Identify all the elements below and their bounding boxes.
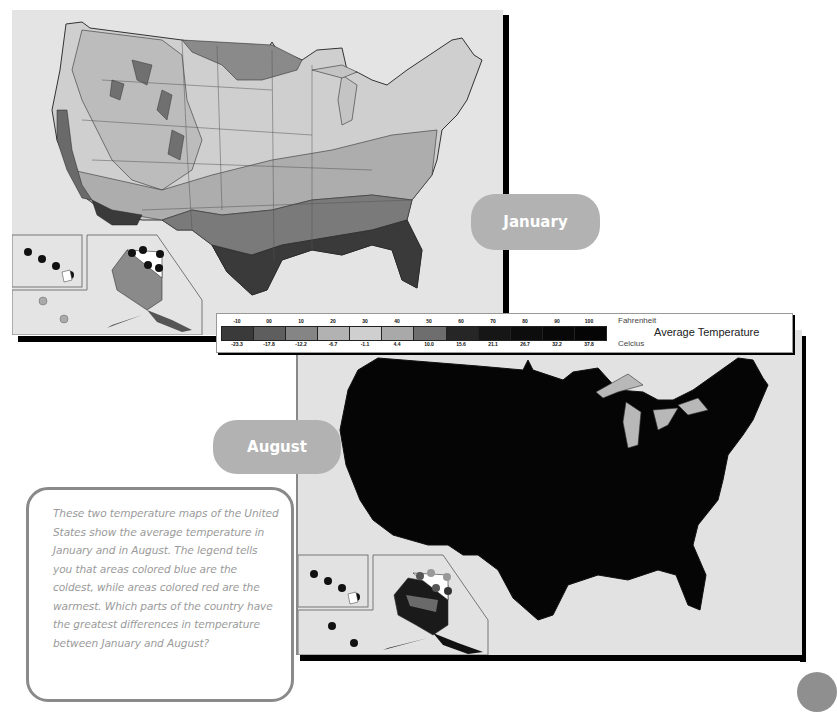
celsius-tick: 4.4 xyxy=(381,341,413,347)
fahrenheit-tick: 70 xyxy=(477,318,509,324)
fahrenheit-tick: 20 xyxy=(317,318,349,324)
legend-swatch xyxy=(479,327,511,340)
august-map xyxy=(296,330,802,655)
january-label: January xyxy=(471,194,600,250)
legend-swatch xyxy=(447,327,479,340)
fahrenheit-tick: 100 xyxy=(573,318,605,324)
legend-swatch xyxy=(511,327,543,340)
fahrenheit-label: Fahrenheit xyxy=(618,316,656,325)
temperature-legend: -10 00 10 20 30 40 50 60 70 80 90 100 -2… xyxy=(216,313,614,353)
description-text: These two temperature maps of the United… xyxy=(53,504,279,652)
august-us-map-graphic xyxy=(298,330,802,655)
legend-labels: Fahrenheit Average Temperature Celcius xyxy=(612,313,793,353)
page-corner-circle xyxy=(797,672,837,712)
fahrenheit-tick: 60 xyxy=(445,318,477,324)
august-map-shadow-bottom xyxy=(300,655,806,661)
fahrenheit-tick: 10 xyxy=(285,318,317,324)
legend-swatch xyxy=(286,327,318,340)
fahrenheit-tick: 30 xyxy=(349,318,381,324)
fahrenheit-tick: 40 xyxy=(381,318,413,324)
legend-swatch xyxy=(350,327,382,340)
celsius-tick: -1.1 xyxy=(349,341,381,347)
january-us-map-graphic xyxy=(12,10,503,335)
fahrenheit-tick: -10 xyxy=(221,318,253,324)
january-map xyxy=(12,10,503,335)
fahrenheit-tick: 50 xyxy=(413,318,445,324)
celsius-ticks: -23.3 -17.8 -12.2 -6.7 -1.1 4.4 10.0 15.… xyxy=(221,341,605,347)
fahrenheit-tick: 00 xyxy=(253,318,285,324)
legend-swatch xyxy=(222,327,254,340)
legend-swatch xyxy=(318,327,350,340)
january-map-shadow-bottom xyxy=(18,336,218,342)
legend-swatch xyxy=(254,327,286,340)
celsius-tick: 26.7 xyxy=(509,341,541,347)
celsius-tick: 21.1 xyxy=(477,341,509,347)
august-label: August xyxy=(213,420,341,474)
legend-swatch xyxy=(543,327,575,340)
celsius-tick: 15.6 xyxy=(445,341,477,347)
legend-color-bar xyxy=(221,326,607,341)
celsius-label: Celcius xyxy=(618,339,644,348)
fahrenheit-tick: 80 xyxy=(509,318,541,324)
legend-swatch xyxy=(382,327,414,340)
celsius-tick: -12.2 xyxy=(285,341,317,347)
celsius-tick: 32.2 xyxy=(541,341,573,347)
celsius-tick: -23.3 xyxy=(221,341,253,347)
description-box: These two temperature maps of the United… xyxy=(26,487,294,702)
january-map-shadow-right xyxy=(503,15,509,345)
celsius-tick: 37.8 xyxy=(573,341,605,347)
celsius-tick: -17.8 xyxy=(253,341,285,347)
celsius-tick: 10.0 xyxy=(413,341,445,347)
legend-swatch xyxy=(575,327,606,340)
fahrenheit-tick: 90 xyxy=(541,318,573,324)
celsius-tick: -6.7 xyxy=(317,341,349,347)
legend-title: Average Temperature xyxy=(654,326,759,338)
legend-swatch xyxy=(414,327,446,340)
fahrenheit-ticks: -10 00 10 20 30 40 50 60 70 80 90 100 xyxy=(221,318,605,324)
